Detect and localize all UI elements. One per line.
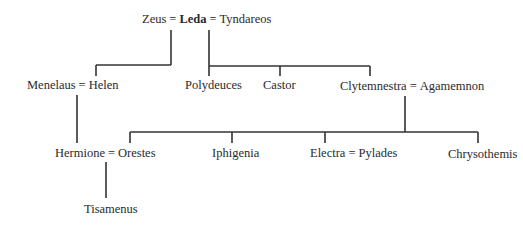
marriage-sign: = [108, 146, 115, 160]
couple-zeus-leda-tyndareos: Zeus=Leda=Tyndareos [142, 12, 271, 26]
marriage-sign: = [410, 79, 417, 93]
person-polydeuces: Polydeuces [185, 78, 242, 92]
person-iphigenia: Iphigenia [212, 146, 259, 160]
person-leda: Leda [179, 12, 206, 26]
person-tisamenus: Tisamenus [84, 202, 138, 216]
marriage-sign: = [209, 12, 216, 26]
person-chrysothemis: Chrysothemis [448, 147, 517, 161]
person-orestes: Orestes [118, 146, 156, 160]
person-hermione: Hermione [55, 146, 105, 160]
person-pylades: Pylades [358, 146, 397, 160]
person-electra: Electra [310, 146, 345, 160]
person-tyndareos: Tyndareos [220, 12, 272, 26]
person-menelaus: Menelaus [27, 78, 76, 92]
couple-menelaus-helen: Menelaus=Helen [27, 78, 119, 92]
person-zeus: Zeus [142, 12, 166, 26]
person-agamemnon: Agamemnon [420, 79, 485, 93]
tree-connectors [0, 0, 523, 231]
couple-hermione-orestes: Hermione=Orestes [55, 146, 156, 160]
couple-clytemnestra-agamemnon: Clytemnestra=Agamemnon [340, 79, 484, 93]
couple-electra-pylades: Electra=Pylades [310, 146, 397, 160]
marriage-sign: = [169, 12, 176, 26]
person-helen: Helen [89, 78, 119, 92]
person-clytemnestra: Clytemnestra [340, 79, 407, 93]
marriage-sign: = [348, 146, 355, 160]
marriage-sign: = [79, 78, 86, 92]
person-castor: Castor [263, 78, 296, 92]
